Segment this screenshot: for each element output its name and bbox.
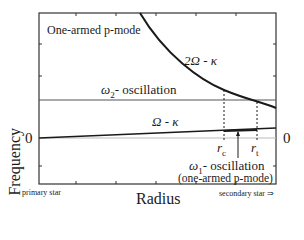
secondary-star-caption: secondary star ⇒ (219, 190, 274, 198)
upper-curve-suffix: - κ (200, 53, 217, 68)
omega2-text: - oscillation (115, 82, 177, 97)
y-axis-label: Frequency (6, 128, 24, 196)
lower-curve-label: Ω - κ (152, 115, 178, 128)
lower-curve-suffix: - κ (161, 114, 178, 129)
mode-title: One-armed p-mode (47, 24, 141, 36)
omega2-symbol: ω (101, 82, 110, 97)
rt-label: rt (251, 141, 259, 158)
lower-curve-symbol: Ω (152, 114, 161, 129)
arrow-up-icon (236, 131, 240, 136)
upper-curve-label: 2Ω - κ (184, 54, 217, 67)
primary-star-caption: primary star (22, 189, 61, 197)
rc-label: rc (217, 141, 226, 158)
omega1-segment (224, 130, 257, 131)
omega1-text: - oscillation (203, 158, 265, 173)
omega2-label: ω2- oscillation (101, 83, 176, 100)
zero-label-right: 0 (283, 131, 291, 146)
rt-sub: t (256, 148, 259, 158)
zero-label: 0 (25, 131, 33, 146)
omega1-symbol: ω (189, 158, 198, 173)
x-axis-label: Radius (136, 191, 180, 207)
upper-curve-symbol: Ω (191, 53, 200, 68)
rc-sub: c (222, 148, 226, 158)
omega1-note: (one-armed p-mode) (178, 173, 273, 185)
